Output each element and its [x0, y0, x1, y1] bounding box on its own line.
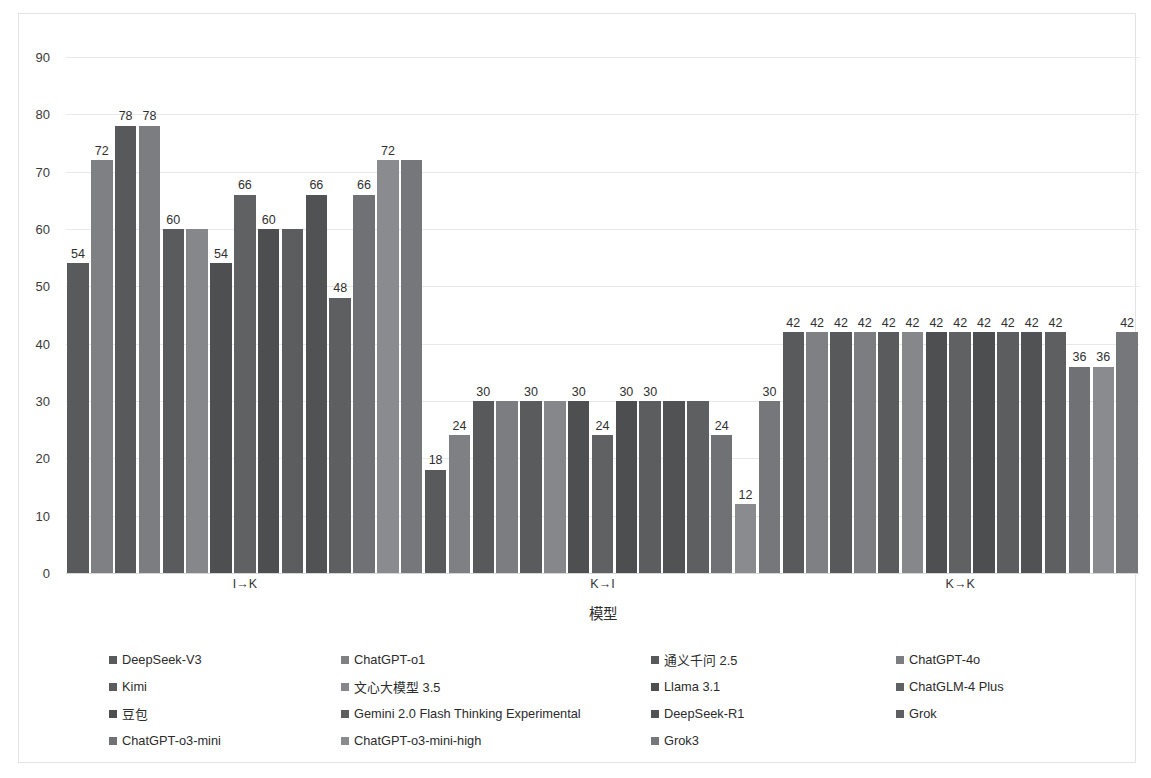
y-axis-tick-label: 10 [0, 508, 50, 523]
bar[interactable]: 60 [163, 229, 184, 573]
legend-item[interactable]: ChatGPT-4o [896, 652, 1091, 667]
bar[interactable]: 30 [496, 401, 517, 573]
bar[interactable]: 30 [616, 401, 637, 573]
bar-slot: 30 [471, 57, 495, 573]
bar-value-label: 36 [1072, 351, 1086, 364]
legend-swatch-icon [341, 683, 349, 691]
legend-label: Llama 3.1 [664, 679, 720, 694]
bar[interactable]: 30 [759, 401, 780, 573]
legend-item[interactable]: Grok3 [651, 733, 896, 748]
legend-label: ChatGLM-4 Plus [909, 679, 1004, 694]
bar[interactable]: 78 [115, 126, 136, 573]
bar-value-label: 60 [262, 214, 276, 227]
y-axis-tick-label: 70 [0, 164, 50, 179]
bar-slot: 30 [757, 57, 781, 573]
bar[interactable]: 36 [1069, 367, 1090, 573]
legend-item[interactable]: ChatGPT-o1 [341, 652, 651, 667]
legend-item[interactable]: DeepSeek-R1 [651, 706, 896, 721]
bar[interactable]: 42 [1021, 332, 1042, 573]
bar-slot: 30 [662, 57, 686, 573]
bar-value-label: 42 [953, 317, 967, 330]
bar-slot: 42 [996, 57, 1020, 573]
bar[interactable]: 42 [878, 332, 899, 573]
bar[interactable]: 36 [1093, 367, 1114, 573]
bar[interactable]: 66 [306, 195, 327, 573]
bar-value-label: 72 [381, 145, 395, 158]
bar[interactable]: 42 [997, 332, 1018, 573]
legend-item[interactable]: DeepSeek-V3 [91, 652, 341, 667]
bar[interactable]: 24 [449, 435, 470, 573]
bar[interactable]: 42 [973, 332, 994, 573]
legend-swatch-icon [651, 710, 659, 718]
bar[interactable]: 30 [639, 401, 660, 573]
bar-slot: 78 [138, 57, 162, 573]
bar[interactable]: 42 [854, 332, 875, 573]
bar[interactable]: 72 [377, 160, 398, 573]
bar-slot: 48 [328, 57, 352, 573]
bar[interactable]: 66 [353, 195, 374, 573]
bar-slot: 78 [114, 57, 138, 573]
bar[interactable]: 12 [735, 504, 756, 573]
legend-item[interactable]: 豆包 [91, 704, 341, 723]
legend-swatch-icon [109, 683, 117, 691]
bar-slot: 24 [710, 57, 734, 573]
bar[interactable]: 42 [926, 332, 947, 573]
bar[interactable]: 48 [329, 298, 350, 573]
chart-page: 0102030405060708090 54727878606054666060… [0, 0, 1151, 778]
bar-slot: 42 [805, 57, 829, 573]
bar-group: 424242424242424242424242363642 [781, 57, 1139, 573]
gridline [66, 573, 1139, 574]
bar[interactable]: 42 [1116, 332, 1137, 573]
legend-swatch-icon [896, 710, 904, 718]
bar[interactable]: 54 [210, 263, 231, 573]
bar[interactable]: 54 [67, 263, 88, 573]
bar-value-label: 42 [977, 317, 991, 330]
legend-item[interactable]: 通义千问 2.5 [651, 650, 896, 669]
bar-value-label: 30 [524, 386, 538, 399]
bar[interactable]: 42 [902, 332, 923, 573]
bar[interactable]: 60 [282, 229, 303, 573]
bar[interactable]: 18 [425, 470, 446, 573]
legend-label: 通义千问 2.5 [664, 650, 737, 669]
bar-value-label: 60 [166, 214, 180, 227]
x-axis-category-labels: I→KK→IK→K [66, 577, 1139, 599]
bar-slot: 18 [424, 57, 448, 573]
bar[interactable]: 78 [139, 126, 160, 573]
legend-item[interactable]: 文心大模型 3.5 [341, 677, 651, 696]
bar[interactable]: 30 [473, 401, 494, 573]
bar[interactable]: 72 [401, 160, 422, 573]
bar[interactable]: 30 [520, 401, 541, 573]
y-axis-tick-label: 20 [0, 451, 50, 466]
bar[interactable]: 30 [687, 401, 708, 573]
bar[interactable]: 30 [568, 401, 589, 573]
bar-slot: 72 [376, 57, 400, 573]
legend-item[interactable]: Grok [896, 706, 1091, 721]
legend-item[interactable]: Gemini 2.0 Flash Thinking Experimental [341, 706, 651, 721]
bar-value-label: 48 [333, 282, 347, 295]
bar[interactable]: 42 [806, 332, 827, 573]
legend-item[interactable]: Kimi [91, 679, 341, 694]
bar[interactable]: 42 [949, 332, 970, 573]
bar[interactable]: 24 [711, 435, 732, 573]
bar-slot: 42 [1020, 57, 1044, 573]
legend-label: 文心大模型 3.5 [354, 677, 440, 696]
bar[interactable]: 72 [91, 160, 112, 573]
legend-item[interactable]: ChatGLM-4 Plus [896, 679, 1091, 694]
bar[interactable]: 30 [663, 401, 684, 573]
bar[interactable]: 42 [783, 332, 804, 573]
bar-slot: 60 [185, 57, 209, 573]
bar[interactable]: 24 [592, 435, 613, 573]
bar-slot: 60 [281, 57, 305, 573]
bar[interactable]: 60 [258, 229, 279, 573]
bar[interactable]: 60 [186, 229, 207, 573]
bar[interactable]: 42 [1045, 332, 1066, 573]
bar-slot: 24 [591, 57, 615, 573]
bar[interactable]: 66 [234, 195, 255, 573]
bar[interactable]: 30 [544, 401, 565, 573]
legend-item[interactable]: Llama 3.1 [651, 679, 896, 694]
legend-swatch-icon [651, 656, 659, 664]
bar-value-label: 42 [929, 317, 943, 330]
legend-item[interactable]: ChatGPT-o3-mini-high [341, 733, 651, 748]
bar[interactable]: 42 [830, 332, 851, 573]
legend-item[interactable]: ChatGPT-o3-mini [91, 733, 341, 748]
